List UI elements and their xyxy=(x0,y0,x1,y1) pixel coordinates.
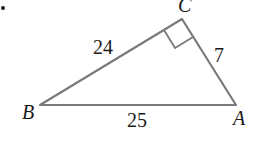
side-label-ba: 25 xyxy=(127,109,147,131)
bullet-mark xyxy=(1,6,5,10)
side-label-ca: 7 xyxy=(214,44,224,66)
triangle-diagram: C B A 24 7 25 xyxy=(0,0,259,153)
vertex-label-b: B xyxy=(22,101,34,123)
vertex-label-c: C xyxy=(178,0,192,16)
vertex-label-a: A xyxy=(231,107,246,129)
right-angle-marker xyxy=(164,30,193,48)
right-triangle xyxy=(40,19,236,105)
side-label-bc: 24 xyxy=(93,36,113,58)
